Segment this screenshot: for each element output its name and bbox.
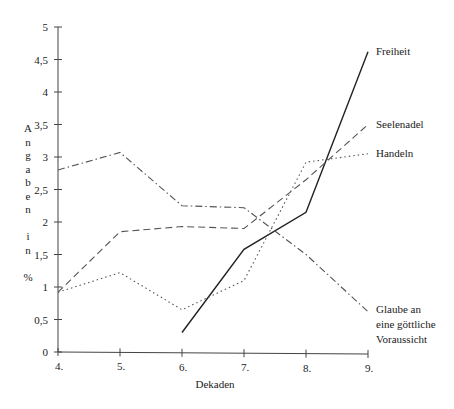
y-tick-label: 3 xyxy=(43,151,49,163)
y-axis-label-char: b xyxy=(25,176,31,188)
y-tick-label: 4,5 xyxy=(34,54,48,66)
series-label: Seelenadel xyxy=(376,118,424,130)
series-label: Handeln xyxy=(376,147,414,159)
series-line xyxy=(182,52,368,333)
y-tick-label: 0 xyxy=(43,346,49,358)
series-line xyxy=(58,152,368,311)
y-tick-label: 2,5 xyxy=(34,184,48,196)
y-axis-label-char: n xyxy=(25,136,31,148)
series-lines xyxy=(58,52,368,333)
series-label: eine göttliche xyxy=(376,318,436,330)
series-line xyxy=(58,125,368,293)
x-tick-label: 4. xyxy=(55,360,64,372)
y-axis-label-char: g xyxy=(25,149,31,161)
y-tick-label: 3,5 xyxy=(34,119,48,131)
y-axis-label-char: i xyxy=(26,230,29,242)
y-axis-label-char: e xyxy=(26,190,31,202)
x-tick-label: 5. xyxy=(117,360,126,372)
x-tick-label: 7. xyxy=(241,361,250,373)
y-axis-label-char: n xyxy=(25,244,31,256)
x-axis-label: Dekaden xyxy=(195,378,235,390)
line-chart: 00,511,522,533,544,554.5.6.7.8.9.Dekaden… xyxy=(0,0,454,409)
y-tick-label: 1,5 xyxy=(34,249,48,261)
y-tick-label: 2 xyxy=(43,216,49,228)
y-tick-label: 4 xyxy=(43,86,49,98)
y-tick-label: 5 xyxy=(43,21,49,33)
y-tick-label: 1 xyxy=(43,281,49,293)
y-axis-label-char: % xyxy=(23,271,32,283)
y-axis-label-char: A xyxy=(24,122,32,134)
x-axis xyxy=(58,352,368,354)
series-label: Freiheit xyxy=(376,45,410,57)
y-axis-label-char: a xyxy=(26,163,31,175)
axes: 00,511,522,533,544,554.5.6.7.8.9.Dekaden… xyxy=(23,21,373,390)
x-tick-label: 8. xyxy=(303,362,312,374)
series-label: Voraussicht xyxy=(376,333,427,345)
x-tick-label: 9. xyxy=(365,362,374,374)
y-axis-label-char: n xyxy=(25,203,31,215)
y-tick-label: 0,5 xyxy=(34,314,48,326)
x-tick-label: 6. xyxy=(179,361,188,373)
series-label: Glaube an xyxy=(376,303,421,315)
series-line xyxy=(58,154,368,310)
series-labels: FreiheitSeelenadelHandelnGlaube aneine g… xyxy=(376,45,436,345)
